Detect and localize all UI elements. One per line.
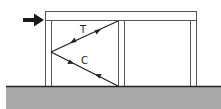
compression-label: C — [81, 55, 88, 66]
tension-label: T — [79, 24, 87, 35]
ground — [6, 86, 221, 109]
lateral-load-arrow-icon — [23, 14, 44, 27]
top-beam — [46, 12, 197, 21]
compression-arrowhead-left-icon — [67, 59, 74, 64]
compression-arrowhead-right-icon — [95, 74, 102, 79]
braced-frame-diagram: T C — [0, 0, 221, 109]
tension-arrowhead-lower-icon — [70, 38, 77, 44]
tension-arrowhead-upper-icon — [95, 29, 102, 35]
